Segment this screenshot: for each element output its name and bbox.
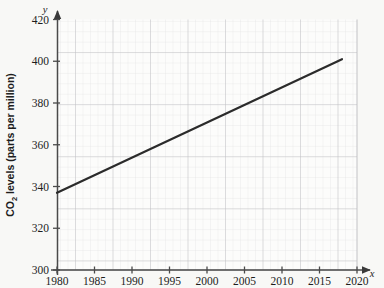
y-tick-label: 400 <box>32 55 50 67</box>
x-tick-label: 1995 <box>158 275 181 287</box>
co2-line-chart-figure: y x 300 320 340 360 380 400 420 <box>0 0 384 288</box>
x-tick-label: 1985 <box>83 275 106 287</box>
x-tick-label: 1980 <box>46 275 69 287</box>
y-tick-label: 420 <box>32 14 50 26</box>
y-tick-label: 340 <box>32 181 50 193</box>
y-tick-label: 360 <box>32 139 50 151</box>
y-tick-label: 380 <box>32 97 50 109</box>
y-tick-label: 320 <box>32 222 50 234</box>
x-tick-label: 2005 <box>233 275 256 287</box>
x-tick-label: 2010 <box>271 275 294 287</box>
chart-canvas: y x 300 320 340 360 380 400 420 <box>0 0 384 288</box>
x-axis-tick-labels: 1980 1985 1990 1995 2000 2005 2010 2015 … <box>46 275 369 287</box>
y-axis-title-rest: levels (parts per million) <box>4 73 16 197</box>
major-gridlines <box>57 20 357 271</box>
x-tick-label: 2015 <box>308 275 331 287</box>
x-tick-label: 1990 <box>121 275 144 287</box>
x-axis-variable-label: x <box>369 268 375 279</box>
x-tick-label: 2000 <box>196 275 219 287</box>
x-tick-label: 2020 <box>346 275 369 287</box>
y-axis-title-main: CO <box>4 201 16 217</box>
